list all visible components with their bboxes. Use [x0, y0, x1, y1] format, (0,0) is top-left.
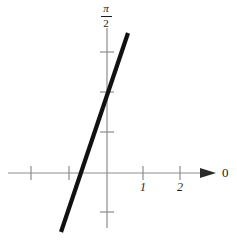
x-axis-end-label: 0 [222, 166, 229, 179]
x-axis-arrowhead [200, 168, 216, 178]
x-axis-group [8, 166, 216, 180]
y-axis-top-label: π 2 [92, 3, 120, 29]
pi-symbol: π [92, 3, 120, 16]
plot-canvas [0, 0, 237, 248]
x-tick-label-2: 2 [177, 181, 183, 193]
x-tick-label-1: 1 [140, 181, 146, 193]
fraction-denominator: 2 [92, 17, 120, 30]
line-graph-figure: π 2 1 2 0 [0, 0, 237, 248]
data-line-segment [61, 33, 128, 232]
y-axis-group [100, 28, 114, 228]
data-series-group [61, 33, 128, 232]
